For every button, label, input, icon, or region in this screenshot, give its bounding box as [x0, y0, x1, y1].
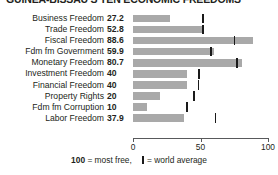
- row-plot: [133, 80, 268, 91]
- chart-row: Property Rights 20: [0, 91, 278, 102]
- row-value: 88.6: [107, 35, 129, 46]
- row-label: Business Freedom: [0, 13, 104, 24]
- value-bar: [133, 48, 214, 56]
- row-label: Monetary Freedom: [0, 57, 104, 68]
- value-bar: [133, 26, 204, 34]
- chart-title: GUINEA-BISSAU'S TEN ECONOMIC FREEDOMS: [6, 0, 272, 5]
- chart-row: Fiscal Freedom 88.6: [0, 35, 278, 46]
- chart-row: Monetary Freedom 80.7: [0, 57, 278, 68]
- row-plot: [133, 46, 268, 57]
- chart-rows: Business Freedom 27.2 Trade Freedom 52.8…: [0, 13, 278, 124]
- world-average-marker: [234, 36, 236, 46]
- world-average-marker: [215, 113, 217, 123]
- value-bar: [133, 114, 184, 122]
- row-value: 40: [107, 68, 129, 79]
- row-plot: [133, 102, 268, 113]
- row-label: Trade Freedom: [0, 24, 104, 35]
- chart-row: Trade Freedom 52.8: [0, 24, 278, 35]
- axis-tick-label: 50: [196, 142, 205, 152]
- row-label: Financial Freedom: [0, 80, 104, 91]
- value-bar: [133, 70, 187, 78]
- row-plot: [133, 57, 268, 68]
- row-label: Fdm fm Corruption: [0, 102, 104, 113]
- row-label: Fiscal Freedom: [0, 35, 104, 46]
- axis-tick: [268, 138, 269, 142]
- value-bar: [133, 59, 242, 67]
- row-value: 27.2: [107, 13, 129, 24]
- axis-tick-label: 0: [131, 142, 136, 152]
- value-bar: [133, 81, 187, 89]
- row-label: Fdm fm Government: [0, 46, 104, 57]
- row-value: 52.8: [107, 24, 129, 35]
- row-label: Investment Freedom: [0, 68, 104, 79]
- chart-row: Fdm fm Government 59.9: [0, 46, 278, 57]
- world-average-marker: [202, 14, 204, 24]
- row-plot: [133, 35, 268, 46]
- row-value: 10: [107, 102, 129, 113]
- row-value: 20: [107, 91, 129, 102]
- chart-row: Financial Freedom 40: [0, 80, 278, 91]
- row-plot: [133, 113, 268, 124]
- legend-most-free-value: 100: [71, 155, 85, 165]
- legend-most-free-text: = most free,: [87, 155, 131, 165]
- world-average-marker: [186, 102, 188, 112]
- value-bar: [133, 15, 170, 23]
- row-label: Property Rights: [0, 91, 104, 102]
- world-average-marker: [198, 80, 200, 90]
- chart-legend: 100 = most free, = world average: [0, 155, 278, 166]
- row-plot: [133, 13, 268, 24]
- axis-tick-label: 100: [261, 142, 275, 152]
- legend-marker-icon: [142, 156, 144, 164]
- row-plot: [133, 68, 268, 79]
- row-value: 37.9: [107, 113, 129, 124]
- economic-freedoms-chart: GUINEA-BISSAU'S TEN ECONOMIC FREEDOMS Bu…: [0, 0, 278, 175]
- value-bar: [133, 103, 147, 111]
- row-plot: [133, 91, 268, 102]
- chart-row: Labor Freedom 37.9: [0, 113, 278, 124]
- legend-world-average-text: = world average: [147, 155, 207, 165]
- chart-row: Business Freedom 27.2: [0, 13, 278, 24]
- row-plot: [133, 24, 268, 35]
- row-value: 80.7: [107, 57, 129, 68]
- axis-tick: [201, 138, 202, 142]
- world-average-marker: [198, 69, 200, 79]
- row-label: Labor Freedom: [0, 113, 104, 124]
- value-bar: [133, 92, 160, 100]
- world-average-marker: [202, 25, 204, 35]
- world-average-marker: [193, 91, 195, 101]
- chart-row: Investment Freedom 40: [0, 68, 278, 79]
- row-value: 40: [107, 80, 129, 91]
- world-average-marker: [210, 47, 212, 57]
- axis-tick: [133, 138, 134, 142]
- chart-row: Fdm fm Corruption 10: [0, 102, 278, 113]
- x-axis: 0 50 100: [133, 138, 268, 143]
- row-value: 59.9: [107, 46, 129, 57]
- world-average-marker: [236, 58, 238, 68]
